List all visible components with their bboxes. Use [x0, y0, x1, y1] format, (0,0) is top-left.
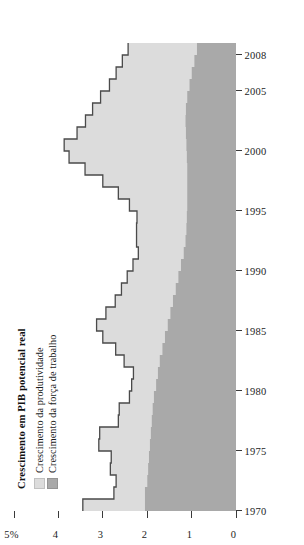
- y-tick-mark: [236, 511, 237, 518]
- x-tick-label: 1970: [240, 506, 272, 517]
- y-tick-mark: [191, 511, 192, 518]
- chart-figure: Crescimento em PIB potencial real Cresci…: [0, 0, 304, 545]
- x-tick-label: 2008: [240, 50, 272, 61]
- x-tick-label: 2005: [240, 86, 272, 97]
- y-tick-label: 3: [89, 529, 111, 540]
- rotated-chart-canvas: Crescimento em PIB potencial real Cresci…: [0, 0, 304, 545]
- y-tick-label: 0: [223, 529, 245, 540]
- x-tick-label: 1980: [240, 386, 272, 397]
- x-tick-label: 1985: [240, 326, 272, 337]
- y-tick-label: 4: [45, 529, 67, 540]
- plot-area: [14, 43, 236, 511]
- x-tick-label: 1990: [240, 266, 272, 277]
- y-tick-mark: [102, 511, 103, 518]
- y-tick-mark: [58, 511, 59, 518]
- x-tick-label: 1995: [240, 206, 272, 217]
- x-tick-label: 1975: [240, 446, 272, 457]
- y-tick-label: 1: [178, 529, 200, 540]
- y-tick-mark: [14, 511, 15, 518]
- stacked-area-plot: [14, 43, 236, 511]
- y-tick-label: 2: [134, 529, 156, 540]
- x-tick-label: 2000: [240, 146, 272, 157]
- y-tick-mark: [147, 511, 148, 518]
- y-tick-label: 5%: [1, 529, 23, 540]
